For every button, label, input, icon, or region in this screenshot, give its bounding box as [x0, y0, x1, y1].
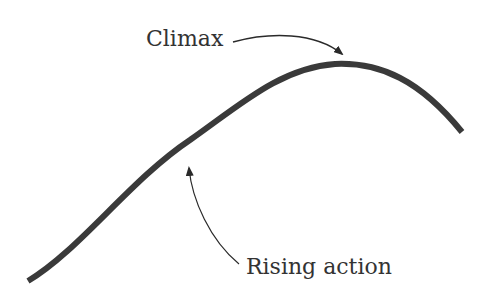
climax-arrow-icon [233, 36, 342, 54]
climax-label: Climax [146, 26, 224, 51]
story-arc-curve [28, 64, 462, 281]
rising-action-arrow-icon [189, 168, 239, 264]
story-arc-diagram: Climax Rising action [0, 0, 492, 298]
rising-action-label: Rising action [246, 254, 392, 279]
